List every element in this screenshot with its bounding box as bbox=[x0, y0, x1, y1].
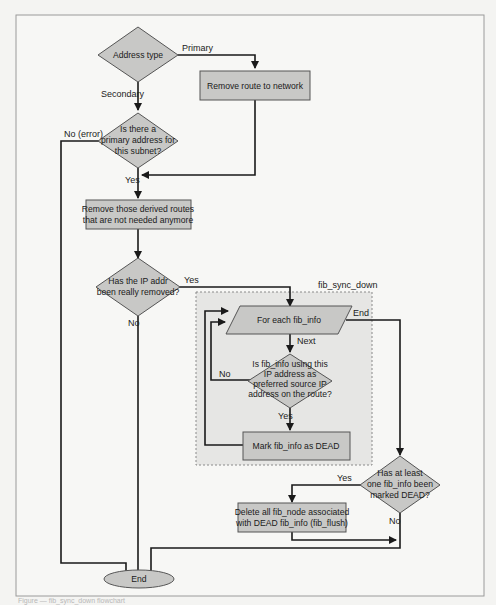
edge-label-no-error: No (error) bbox=[64, 129, 103, 139]
svg-text:primary address for: primary address for bbox=[101, 135, 175, 145]
svg-text:address on the route?: address on the route? bbox=[248, 389, 332, 399]
svg-text:this subnet?: this subnet? bbox=[115, 146, 162, 156]
node-for-each: For each fib_info bbox=[226, 306, 352, 334]
svg-text:been really removed?: been really removed? bbox=[97, 287, 180, 297]
svg-text:marked DEAD?: marked DEAD? bbox=[370, 490, 430, 500]
svg-text:that are not needed anymore: that are not needed anymore bbox=[83, 215, 194, 225]
edge-label-no4: No bbox=[389, 516, 401, 526]
svg-text:preferred source IP: preferred source IP bbox=[253, 379, 327, 389]
svg-text:Has the IP addr: Has the IP addr bbox=[108, 276, 168, 286]
svg-text:one fib_info been: one fib_info been bbox=[367, 479, 433, 489]
svg-text:IP address as: IP address as bbox=[264, 369, 316, 379]
svg-text:with DEAD fib_info (fib_flush): with DEAD fib_info (fib_flush) bbox=[235, 518, 348, 528]
svg-text:For each fib_info: For each fib_info bbox=[257, 315, 321, 325]
node-end: End bbox=[104, 570, 174, 588]
svg-text:Address type: Address type bbox=[113, 50, 163, 60]
edge-label-yes3: Yes bbox=[278, 411, 293, 421]
edge-label-end-loop: End bbox=[353, 308, 369, 318]
edge-label-next: Next bbox=[297, 336, 316, 346]
svg-text:Remove those derived routes: Remove those derived routes bbox=[82, 204, 194, 214]
edge-label-no2: No bbox=[128, 318, 140, 328]
svg-text:Has at least: Has at least bbox=[377, 468, 423, 478]
edge-label-yes1: Yes bbox=[125, 175, 140, 185]
edge-label-secondary: Secondary bbox=[101, 89, 145, 99]
svg-text:Is there a: Is there a bbox=[120, 124, 156, 134]
svg-text:Remove route to network: Remove route to network bbox=[207, 81, 304, 91]
edge-label-yes2: Yes bbox=[184, 275, 199, 285]
edge-label-yes4: Yes bbox=[337, 473, 352, 483]
svg-text:End: End bbox=[131, 574, 147, 584]
svg-text:Delete all fib_node associated: Delete all fib_node associated bbox=[235, 507, 350, 517]
node-mark-dead: Mark fib_info as DEAD bbox=[243, 432, 350, 460]
edge-label-primary: Primary bbox=[182, 43, 213, 53]
group-label: fib_sync_down bbox=[318, 280, 378, 290]
svg-text:Mark fib_info as DEAD: Mark fib_info as DEAD bbox=[253, 441, 340, 451]
figure-caption: Figure — fib_sync_down flowchart bbox=[18, 597, 125, 605]
edge-label-no3: No bbox=[219, 369, 231, 379]
node-remove-route: Remove route to network bbox=[200, 71, 310, 100]
node-remove-derived: Remove those derived routes that are not… bbox=[82, 200, 194, 229]
node-delete-nodes: Delete all fib_node associated with DEAD… bbox=[235, 503, 350, 532]
svg-text:Is fib_info using this: Is fib_info using this bbox=[252, 359, 327, 369]
flowchart: fib_sync_down Primary Secondary No (erro… bbox=[0, 0, 496, 605]
